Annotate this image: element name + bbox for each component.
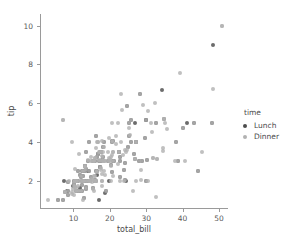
y-axis-spine — [40, 14, 41, 209]
data-point — [150, 130, 154, 134]
data-point — [154, 121, 158, 125]
x-tick-mark — [219, 209, 220, 212]
data-point — [46, 198, 50, 202]
data-point — [72, 193, 76, 197]
y-tick-label: 8 — [28, 60, 33, 69]
data-point — [163, 121, 167, 125]
x-axis-label: total_bill — [117, 225, 151, 234]
data-point — [114, 134, 118, 138]
legend-marker-dinner-icon — [243, 135, 247, 139]
data-point — [110, 140, 114, 144]
y-tick-label: 2 — [28, 176, 33, 185]
data-point — [81, 198, 85, 202]
data-point — [132, 152, 136, 156]
data-point — [124, 150, 128, 154]
data-point — [127, 126, 131, 130]
data-point — [125, 104, 129, 108]
data-point — [144, 118, 148, 122]
legend-marker-lunch-icon — [243, 124, 247, 128]
data-point — [96, 140, 100, 144]
data-point — [196, 169, 200, 173]
legend-title: time — [243, 108, 279, 117]
data-point — [110, 121, 114, 125]
data-point — [118, 155, 122, 159]
x-tick-label: 20 — [105, 214, 115, 223]
x-tick-mark — [73, 209, 74, 212]
data-point — [109, 163, 113, 167]
data-point — [120, 108, 124, 112]
data-point — [66, 180, 70, 184]
x-tick-label: 50 — [214, 214, 224, 223]
data-point — [211, 87, 215, 91]
data-point — [119, 92, 123, 96]
y-tick-label: 4 — [28, 138, 33, 147]
data-point — [210, 121, 214, 125]
y-tick-mark — [37, 64, 40, 65]
x-tick-label: 10 — [69, 214, 79, 223]
data-point — [127, 134, 131, 138]
data-point — [88, 179, 92, 183]
data-point — [160, 88, 164, 92]
data-point — [109, 179, 113, 183]
data-point — [165, 127, 169, 131]
data-point — [126, 145, 130, 149]
data-point — [87, 140, 91, 144]
data-point — [56, 198, 60, 202]
data-point — [101, 155, 105, 159]
data-point — [97, 198, 101, 202]
data-point — [84, 187, 88, 191]
data-point — [131, 189, 135, 193]
legend-item-dinner[interactable]: Dinner — [243, 131, 279, 142]
legend-label-dinner: Dinner — [254, 132, 279, 141]
y-tick-label: 6 — [28, 99, 33, 108]
data-point — [129, 140, 133, 144]
y-axis-label: tip — [7, 106, 16, 116]
y-tick-mark — [37, 103, 40, 104]
data-point — [183, 159, 187, 163]
x-tick-label: 40 — [178, 214, 188, 223]
data-point — [103, 173, 107, 177]
data-point — [116, 121, 120, 125]
data-point — [178, 71, 182, 75]
legend-label-lunch: Lunch — [254, 121, 276, 130]
data-point — [145, 158, 149, 162]
x-tick-mark — [183, 209, 184, 212]
data-point — [118, 179, 122, 183]
data-point — [61, 198, 65, 202]
data-point — [101, 150, 105, 154]
x-axis-spine — [40, 208, 228, 209]
data-point — [106, 150, 110, 154]
data-point — [134, 140, 138, 144]
data-point — [111, 150, 115, 154]
data-point — [133, 157, 137, 161]
data-point — [100, 184, 104, 188]
data-point — [220, 24, 224, 28]
data-point — [192, 121, 196, 125]
data-point — [134, 179, 138, 183]
data-point — [123, 161, 127, 165]
plot-axes-area: 1020304050 246810 — [40, 14, 228, 209]
data-point — [77, 152, 81, 156]
data-point — [211, 43, 215, 47]
data-point — [174, 140, 178, 144]
data-point — [122, 168, 126, 172]
data-point — [92, 189, 96, 193]
data-point — [98, 165, 102, 169]
data-point — [141, 103, 145, 107]
x-tick-label: 30 — [141, 214, 151, 223]
data-point — [111, 174, 115, 178]
data-point — [138, 92, 142, 96]
legend-item-lunch[interactable]: Lunch — [243, 120, 279, 131]
data-point — [139, 168, 143, 172]
legend: time Lunch Dinner — [243, 108, 279, 142]
data-point — [66, 193, 70, 197]
x-tick-mark — [146, 209, 147, 212]
scatter-plot-figure: 1020304050 246810 total_bill tip time Lu… — [0, 0, 288, 246]
y-tick-mark — [37, 26, 40, 27]
data-point — [181, 126, 185, 130]
data-point — [119, 140, 123, 144]
data-point — [116, 162, 120, 166]
x-tick-mark — [110, 209, 111, 212]
data-point — [102, 140, 106, 144]
y-tick-label: 10 — [23, 21, 33, 30]
